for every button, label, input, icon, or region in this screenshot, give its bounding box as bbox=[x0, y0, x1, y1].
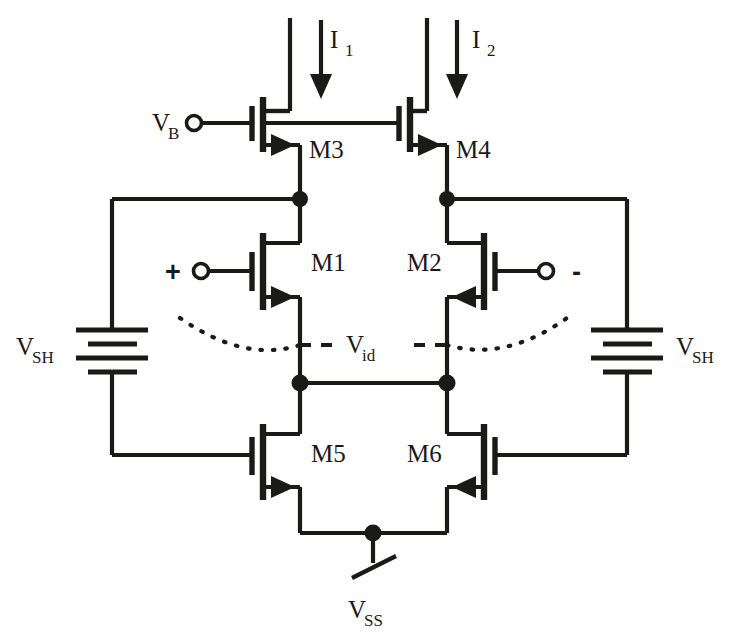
m2-source-arrow-icon bbox=[452, 286, 476, 308]
circuit-svg: I 1 I 2 V B M3 M4 bbox=[0, 0, 747, 635]
plus-input-label: + bbox=[165, 257, 181, 287]
vss-ground-slash-icon bbox=[352, 533, 396, 578]
vss-label-sub: SS bbox=[364, 611, 383, 630]
minus-input-terminal-icon[interactable] bbox=[539, 264, 554, 279]
i2-label: I bbox=[472, 26, 480, 53]
i2-current-arrow-icon bbox=[446, 20, 468, 99]
vsh-right-label-sub: SH bbox=[692, 348, 714, 367]
right-upper-rail bbox=[447, 199, 627, 330]
mosfet-m2[interactable] bbox=[447, 233, 537, 383]
plus-input-terminal-icon[interactable] bbox=[194, 264, 209, 279]
mosfet-m1[interactable] bbox=[210, 233, 300, 383]
mosfet-m3[interactable] bbox=[252, 97, 300, 199]
i2-label-sub: 2 bbox=[487, 41, 496, 60]
m6-source-arrow-icon bbox=[452, 476, 476, 498]
m5-label: M5 bbox=[311, 440, 346, 467]
i2-branch-wire bbox=[412, 18, 427, 111]
minus-input-label: - bbox=[572, 257, 581, 287]
mosfet-m6[interactable] bbox=[447, 424, 495, 533]
m2-label: M2 bbox=[407, 249, 442, 276]
m4-label: M4 bbox=[456, 136, 491, 163]
vb-terminal-open-circle-icon[interactable] bbox=[187, 116, 202, 131]
m5-source-arrow-icon bbox=[271, 476, 295, 498]
i1-branch-wire bbox=[265, 18, 290, 111]
i1-label: I bbox=[330, 26, 338, 53]
m4-source-arrow-icon bbox=[418, 134, 442, 156]
battery-vsh-right bbox=[591, 330, 663, 455]
m1-label: M1 bbox=[311, 249, 346, 276]
mosfet-m4[interactable] bbox=[399, 97, 447, 199]
circuit-schematic: I 1 I 2 V B M3 M4 bbox=[0, 0, 747, 635]
vb-label-sub: B bbox=[168, 124, 179, 143]
i1-label-sub: 1 bbox=[345, 41, 354, 60]
mosfet-m5[interactable] bbox=[252, 424, 300, 533]
i1-current-arrow-icon bbox=[310, 20, 332, 99]
m3-source-arrow-icon bbox=[271, 134, 295, 156]
m6-label: M6 bbox=[407, 440, 442, 467]
battery-vsh-left bbox=[76, 330, 148, 455]
m3-label: M3 bbox=[309, 136, 344, 163]
vid-label-sub: id bbox=[362, 346, 376, 365]
vsh-left-label-sub: SH bbox=[32, 348, 54, 367]
m1-source-arrow-icon bbox=[271, 286, 295, 308]
